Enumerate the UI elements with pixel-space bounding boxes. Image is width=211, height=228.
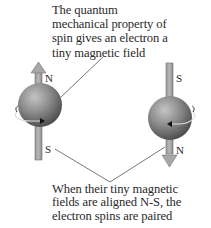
bottom-leader-line-right bbox=[110, 147, 165, 182]
arrow-down-icon bbox=[162, 155, 177, 167]
left-electron: N S bbox=[15, 62, 62, 160]
bottom-caption-line: electron spins are paired bbox=[52, 210, 181, 223]
bottom-caption: When their tiny magnetic fields are alig… bbox=[52, 183, 181, 223]
south-pole-label: S bbox=[176, 72, 182, 84]
bottom-caption-line: When their tiny magnetic bbox=[52, 183, 181, 196]
north-pole-label: N bbox=[176, 144, 184, 156]
electron-sphere bbox=[148, 96, 192, 140]
right-electron: S N bbox=[148, 63, 195, 167]
arrow-up-icon bbox=[31, 62, 46, 73]
south-pole-label: S bbox=[45, 143, 51, 155]
bottom-caption-line: fields are aligned N-S, the bbox=[52, 196, 181, 209]
bottom-leader-line-left bbox=[55, 149, 110, 182]
north-pole-label: N bbox=[45, 72, 53, 84]
top-leader-line bbox=[61, 57, 103, 97]
